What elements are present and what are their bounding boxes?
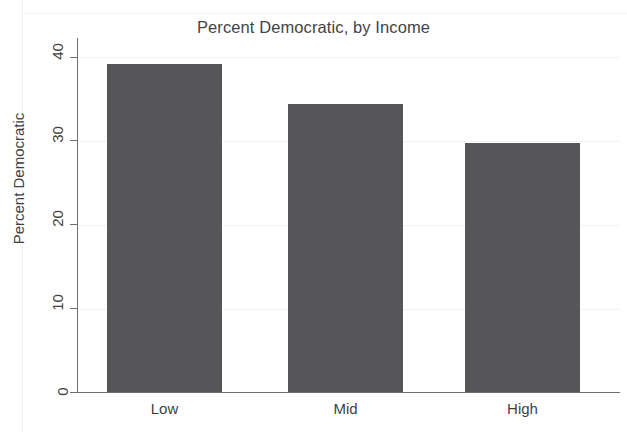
y-tick-label-30: 30 <box>0 126 66 143</box>
chart-figure: Percent Democratic, by Income Percent De… <box>0 0 627 432</box>
bar-low <box>107 64 222 392</box>
chart-title: Percent Democratic, by Income <box>0 18 627 37</box>
y-tick-mark-40 <box>70 57 77 58</box>
y-tick-label-20: 20 <box>0 210 66 227</box>
y-tick-label-20-text: 20 <box>49 210 66 227</box>
bar-mid <box>288 104 403 392</box>
y-tick-label-30-text: 30 <box>49 126 66 143</box>
y-tick-label-0-text: 0 <box>53 387 70 395</box>
y-tick-mark-10 <box>70 308 77 309</box>
plot-area <box>77 40 620 392</box>
y-tick-mark-0 <box>70 392 77 393</box>
y-tick-label-40: 40 <box>0 43 66 60</box>
y-tick-label-10: 10 <box>0 294 66 311</box>
y-tick-label-0: 0 <box>0 383 66 400</box>
y-tick-label-10-text: 10 <box>49 294 66 311</box>
x-tick-label-low: Low <box>107 400 222 417</box>
y-tick-mark-20 <box>70 224 77 225</box>
y-axis-line <box>77 38 78 393</box>
gridline <box>77 57 620 58</box>
figure-frame-top-edge <box>22 13 627 14</box>
y-axis-title: Percent Democratic <box>10 49 27 309</box>
bar-high <box>465 143 580 392</box>
y-tick-mark-30 <box>70 140 77 141</box>
y-tick-label-40-text: 40 <box>49 43 66 60</box>
x-axis-line <box>77 392 620 393</box>
x-tick-label-high: High <box>465 400 580 417</box>
x-tick-label-mid: Mid <box>288 400 403 417</box>
